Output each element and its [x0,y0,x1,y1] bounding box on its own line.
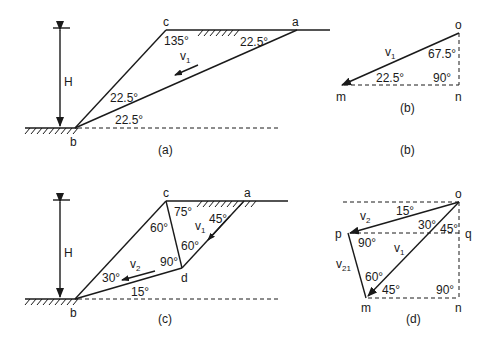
angle-a-label: 22.5° [240,35,268,49]
angle-b-lower-label: 15° [131,285,149,299]
v1-direction-arrow [175,65,198,75]
v1-label: v1 [394,241,405,257]
point-a-label: a [292,15,299,29]
line-bd [75,268,182,299]
v2-label: v2 [130,257,141,273]
angle-a-left-label: 45° [209,212,227,226]
point-n-label: n [455,301,462,315]
point-c-label: c [163,15,169,29]
caption-a: (a) [158,143,173,157]
angle-m-label: 22.5° [376,71,404,85]
ground-hatch-icon [198,30,239,36]
point-n-label: n [455,90,462,104]
caption-b: (b) [400,143,415,157]
v1-label: v1 [195,219,206,235]
point-m-label: m [361,301,371,315]
angle-m-lower-label: 45° [382,283,400,297]
v2-label: v2 [360,209,371,225]
velocity-diagram-canvas: H v1 c a b 135° 22.5° 22.5° 22.5° (a) o … [0,0,490,339]
figure-b: o m n v1 67.5° 22.5° 90° (b) (b) [336,18,462,157]
angle-o-q-label: 45° [440,222,458,236]
point-b-label: b [70,135,77,149]
point-o-label: o [455,18,462,32]
angle-m-upper-label: 60° [365,270,383,284]
v1-label: v1 [385,45,396,61]
ground-hatch-icon [25,128,78,134]
point-p-label: p [335,227,342,241]
v1-label: v1 [180,49,191,65]
caption-d: (d) [406,312,421,326]
caption-b-inner: (b) [400,101,415,115]
angle-n-label: 90° [436,283,454,297]
figure-c: H v1 v2 c a d b 75° 45° 60° 60° 90° 30° … [25,186,288,326]
angle-n-label: 90° [433,71,451,85]
point-o-label: o [455,187,462,201]
angle-o-label: 67.5° [428,47,456,61]
angle-b-lower-label: 22.5° [115,113,143,127]
angle-d-left-label: 90° [160,255,178,269]
figure-a: H v1 c a b 135° 22.5° 22.5° 22.5° (a) [25,15,330,157]
angle-c-label: 135° [164,34,189,48]
ground-hatch-icon [197,201,256,207]
height-label: H [64,246,73,260]
point-c-label: c [163,186,169,200]
v21-label: v21 [336,257,351,273]
angle-o-v2-label: 15° [396,204,414,218]
angle-c-below-label: 60° [150,221,168,235]
angle-b-upper-label: 30° [102,271,120,285]
ground-hatch-icon [25,299,78,305]
angle-b-upper-label: 22.5° [110,91,138,105]
slope-bc [75,201,166,299]
point-b-label: b [70,306,77,320]
point-d-label: d [181,271,188,285]
figure-d: o p q m n v2 v1 v21 15° 30° 45° 90° 60° … [335,187,472,326]
angle-d-upper-label: 60° [181,239,199,253]
point-m-label: m [336,90,346,104]
point-q-label: q [465,227,472,241]
point-a-label: a [244,186,251,200]
angle-c-right-label: 75° [174,205,192,219]
caption-c: (c) [158,312,172,326]
angle-p-label: 90° [358,236,376,250]
height-label: H [64,75,73,89]
angle-o-mid-label: 30° [418,218,436,232]
